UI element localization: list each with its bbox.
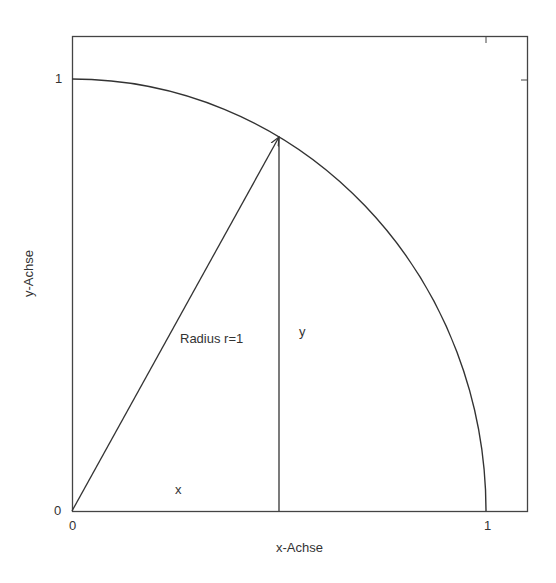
x-tick-label-1: 1 bbox=[484, 518, 491, 533]
y-tick-label-1: 1 bbox=[55, 71, 62, 86]
plot-frame bbox=[73, 37, 528, 512]
x-tick-label-0: 0 bbox=[69, 518, 76, 533]
y-axis-label: y-Achse bbox=[21, 250, 36, 297]
y-tick-label-0: 0 bbox=[54, 503, 61, 518]
y-segment-label: y bbox=[299, 324, 306, 339]
radius-arrow bbox=[72, 137, 279, 511]
x-segment-label: x bbox=[175, 482, 182, 497]
x-axis-label: x-Achse bbox=[276, 540, 323, 555]
radius-label: Radius r=1 bbox=[180, 331, 243, 346]
diagram-canvas bbox=[0, 0, 556, 583]
